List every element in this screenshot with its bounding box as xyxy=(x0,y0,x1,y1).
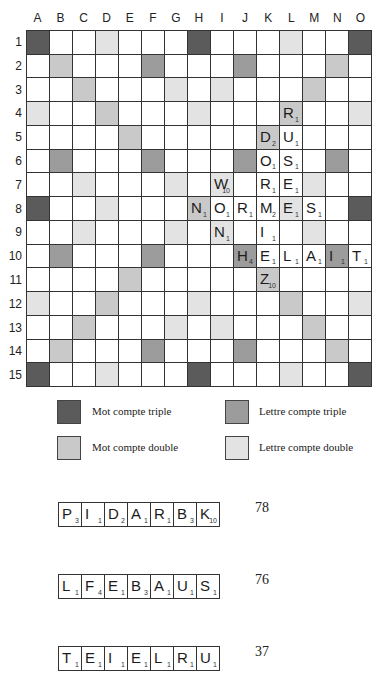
board-square-m2[interactable] xyxy=(303,55,325,78)
board-square-i14[interactable] xyxy=(211,340,233,363)
board-square-f9[interactable] xyxy=(142,221,164,244)
rack-tile[interactable]: E1 xyxy=(82,647,104,670)
board-square-n13[interactable] xyxy=(326,316,348,339)
board-square-n8[interactable] xyxy=(326,197,348,220)
board-square-c7[interactable] xyxy=(73,173,95,196)
board-square-e3[interactable] xyxy=(119,78,141,101)
board-square-o7[interactable] xyxy=(349,173,371,196)
board-square-m1[interactable] xyxy=(303,31,325,54)
rack-tile[interactable]: B3 xyxy=(174,503,196,526)
board-square-l11[interactable] xyxy=(280,268,302,291)
board-square-n5[interactable] xyxy=(326,126,348,149)
board-square-b4[interactable] xyxy=(50,102,72,125)
board-square-o14[interactable] xyxy=(349,340,371,363)
board-square-l15[interactable] xyxy=(280,363,302,386)
rack-tile[interactable]: I1 xyxy=(105,647,127,670)
board-square-e11[interactable] xyxy=(119,268,141,291)
board-square-h12[interactable] xyxy=(188,292,210,315)
board-square-k2[interactable] xyxy=(257,55,279,78)
board-square-l13[interactable] xyxy=(280,316,302,339)
rack-tile[interactable]: U1 xyxy=(174,575,196,598)
board-square-l5[interactable]: U1 xyxy=(280,126,302,149)
board-square-b13[interactable] xyxy=(50,316,72,339)
board-square-m15[interactable] xyxy=(303,363,325,386)
board-square-d9[interactable] xyxy=(96,221,118,244)
board-square-i5[interactable] xyxy=(211,126,233,149)
board-square-i9[interactable]: N1 xyxy=(211,221,233,244)
board-square-n6[interactable] xyxy=(326,150,348,173)
board-square-e10[interactable] xyxy=(119,245,141,268)
board-square-d11[interactable] xyxy=(96,268,118,291)
board-square-n7[interactable] xyxy=(326,173,348,196)
board-square-a5[interactable] xyxy=(27,126,49,149)
board-square-m5[interactable] xyxy=(303,126,325,149)
board-square-k11[interactable]: Z10 xyxy=(257,268,279,291)
board-square-k12[interactable] xyxy=(257,292,279,315)
board-square-e2[interactable] xyxy=(119,55,141,78)
board-square-k4[interactable] xyxy=(257,102,279,125)
board-square-g6[interactable] xyxy=(165,150,187,173)
board-square-j1[interactable] xyxy=(234,31,256,54)
board-square-i10[interactable] xyxy=(211,245,233,268)
board-square-l3[interactable] xyxy=(280,78,302,101)
board-square-h10[interactable] xyxy=(188,245,210,268)
board-square-i11[interactable] xyxy=(211,268,233,291)
board-square-n14[interactable] xyxy=(326,340,348,363)
board-square-g8[interactable] xyxy=(165,197,187,220)
board-square-c9[interactable] xyxy=(73,221,95,244)
board-square-i4[interactable] xyxy=(211,102,233,125)
board-square-d10[interactable] xyxy=(96,245,118,268)
board-square-o12[interactable] xyxy=(349,292,371,315)
board-square-b2[interactable] xyxy=(50,55,72,78)
board-square-o15[interactable] xyxy=(349,363,371,386)
board-square-b5[interactable] xyxy=(50,126,72,149)
board-square-c2[interactable] xyxy=(73,55,95,78)
board-square-b8[interactable] xyxy=(50,197,72,220)
board-square-f11[interactable] xyxy=(142,268,164,291)
board-square-a6[interactable] xyxy=(27,150,49,173)
board-square-j13[interactable] xyxy=(234,316,256,339)
board-square-o8[interactable] xyxy=(349,197,371,220)
board-square-f8[interactable] xyxy=(142,197,164,220)
rack-tile[interactable]: S1 xyxy=(197,575,219,598)
rack-tile[interactable]: I1 xyxy=(82,503,104,526)
board-square-f3[interactable] xyxy=(142,78,164,101)
rack-tile[interactable]: P3 xyxy=(59,503,81,526)
board-square-n2[interactable] xyxy=(326,55,348,78)
board-square-f10[interactable] xyxy=(142,245,164,268)
board-square-l4[interactable]: R1 xyxy=(280,102,302,125)
board-square-m12[interactable] xyxy=(303,292,325,315)
board-square-g4[interactable] xyxy=(165,102,187,125)
board-square-e1[interactable] xyxy=(119,31,141,54)
rack-tile[interactable]: R1 xyxy=(174,647,196,670)
board-square-b3[interactable] xyxy=(50,78,72,101)
board-square-b1[interactable] xyxy=(50,31,72,54)
board-square-c4[interactable] xyxy=(73,102,95,125)
board-square-l14[interactable] xyxy=(280,340,302,363)
board-square-g10[interactable] xyxy=(165,245,187,268)
board-square-f14[interactable] xyxy=(142,340,164,363)
board-square-n1[interactable] xyxy=(326,31,348,54)
board-square-e5[interactable] xyxy=(119,126,141,149)
board-square-i7[interactable]: W10 xyxy=(211,173,233,196)
board-square-h8[interactable]: N1 xyxy=(188,197,210,220)
board-square-e8[interactable] xyxy=(119,197,141,220)
board-square-f4[interactable] xyxy=(142,102,164,125)
board-square-h11[interactable] xyxy=(188,268,210,291)
board-square-g11[interactable] xyxy=(165,268,187,291)
board-square-h15[interactable] xyxy=(188,363,210,386)
board-square-l1[interactable] xyxy=(280,31,302,54)
board-square-f2[interactable] xyxy=(142,55,164,78)
board-square-i15[interactable] xyxy=(211,363,233,386)
board-square-j6[interactable] xyxy=(234,150,256,173)
board-square-f1[interactable] xyxy=(142,31,164,54)
board-square-b7[interactable] xyxy=(50,173,72,196)
board-square-c15[interactable] xyxy=(73,363,95,386)
board-square-j4[interactable] xyxy=(234,102,256,125)
board-square-n3[interactable] xyxy=(326,78,348,101)
board-square-g9[interactable] xyxy=(165,221,187,244)
board-square-m4[interactable] xyxy=(303,102,325,125)
board-square-n15[interactable] xyxy=(326,363,348,386)
board-square-k1[interactable] xyxy=(257,31,279,54)
board-square-f6[interactable] xyxy=(142,150,164,173)
